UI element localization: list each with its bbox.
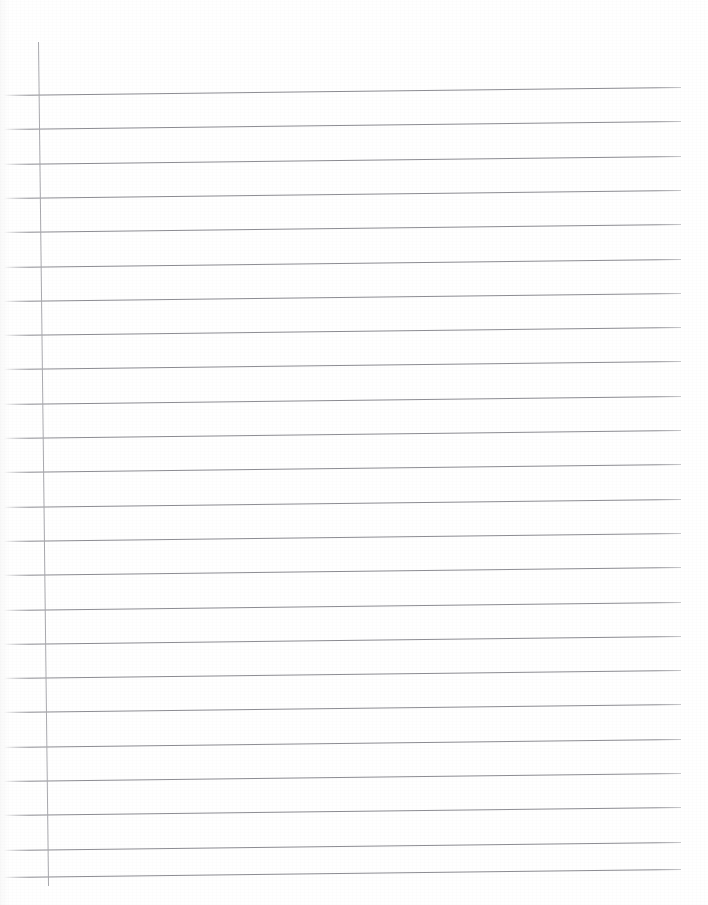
vertical-margin-line bbox=[38, 42, 49, 886]
ruled-line bbox=[4, 533, 681, 542]
ruled-line bbox=[4, 807, 681, 816]
ruled-line bbox=[4, 464, 681, 473]
ruled-lines-group bbox=[0, 0, 708, 905]
ruled-line bbox=[4, 396, 681, 405]
ruled-line bbox=[4, 601, 681, 610]
ruled-line bbox=[4, 704, 681, 713]
ruled-line bbox=[4, 636, 681, 645]
ruled-line bbox=[4, 361, 681, 370]
ruled-line bbox=[4, 327, 681, 336]
ruled-line bbox=[4, 293, 681, 302]
lined-paper-page bbox=[0, 0, 708, 905]
ruled-line bbox=[4, 670, 681, 679]
ruled-line bbox=[4, 121, 681, 130]
ruled-line bbox=[4, 190, 681, 199]
ruled-line bbox=[4, 258, 681, 267]
ruled-line bbox=[4, 739, 681, 748]
ruled-line bbox=[4, 842, 681, 851]
ruled-line bbox=[4, 567, 681, 576]
ruled-line bbox=[4, 499, 681, 508]
ruled-line bbox=[4, 156, 681, 165]
ruled-line bbox=[4, 869, 681, 878]
ruled-line bbox=[4, 773, 681, 782]
ruled-line bbox=[4, 87, 681, 96]
ruled-line bbox=[4, 430, 681, 439]
ruled-line bbox=[4, 224, 681, 233]
